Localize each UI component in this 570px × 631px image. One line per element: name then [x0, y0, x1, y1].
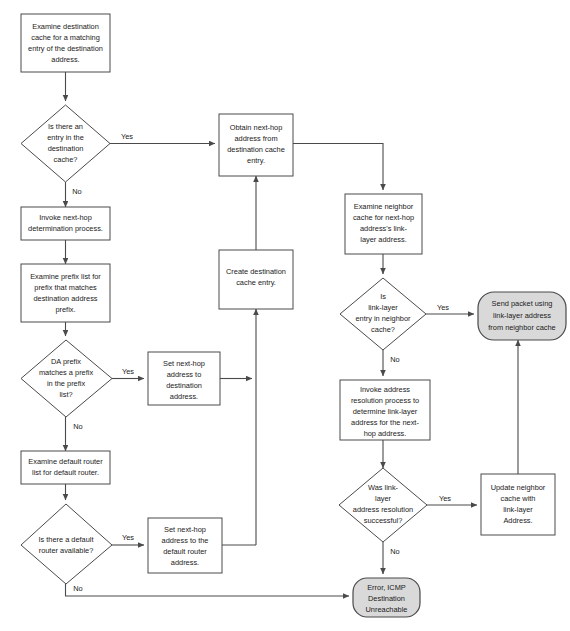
node-text-line: destination cache	[227, 145, 285, 154]
node-text-line: Create destination	[226, 267, 286, 276]
node-text-line: successful?	[364, 516, 403, 525]
node-invoke-next-hop-determination: Invoke next-hop determination process.	[21, 207, 110, 240]
connector-defaultrouter-no-to-error	[66, 584, 350, 596]
node-text-line: address for the next-	[351, 418, 419, 427]
node-set-next-hop-destination: Set next-hop address to destination addr…	[148, 352, 220, 405]
edge-label-da-prefix-no: No	[73, 422, 82, 431]
edge-label-neighbor-cache-yes: Yes	[437, 303, 449, 312]
node-text-line: Send packet using	[492, 299, 553, 308]
connector-obtain-to-neighborcache	[293, 144, 383, 191]
node-text-line: cache for next-hop	[353, 213, 414, 222]
node-text-line: Set next-hop	[164, 525, 206, 534]
flowchart-canvas: Examine destination cache for a matching…	[0, 0, 570, 631]
node-text-line: address resolution	[353, 505, 413, 514]
node-examine-destination-cache: Examine destination cache for a matching…	[21, 14, 110, 72]
node-text-line: address.	[171, 558, 199, 567]
node-text-line: matches a prefix	[39, 368, 94, 377]
node-text-line: from neighbor cache	[488, 323, 555, 332]
node-send-packet: Send packet using link-layer address fro…	[478, 292, 566, 340]
node-text-line: link-layer	[503, 505, 533, 514]
node-text-line: Is there a default	[38, 535, 93, 544]
node-create-destination-cache-entry: Create destination cache entry.	[219, 250, 293, 309]
node-text-line: list for default router.	[32, 468, 99, 477]
node-text-line: prefix.	[55, 305, 75, 314]
node-text-line: determine link-layer	[353, 407, 418, 416]
node-obtain-next-hop-address: Obtain next-hop address from destination…	[219, 114, 293, 176]
node-error-icmp-destination-unreachable: Error, ICMP Destination Unreachable	[353, 578, 420, 617]
node-text-line: DA prefix	[51, 357, 81, 366]
node-update-neighbor-cache: Update neighbor cache with link-layer Ad…	[481, 474, 555, 535]
node-text-line: router available?	[39, 546, 94, 555]
node-text-line: Obtain next-hop	[230, 123, 283, 132]
node-da-prefix-matches: DA prefix matches a prefix in the prefix…	[21, 340, 112, 417]
node-was-address-resolution-successful: Was link- layer address resolution succe…	[339, 468, 427, 542]
node-text-line: cache for a matching	[31, 33, 100, 42]
edge-label-resolution-yes: Yes	[439, 494, 451, 503]
node-text-line: Examine default router	[28, 457, 103, 466]
node-text-line: entry of the destination	[28, 44, 103, 53]
node-text-line: Invoke address	[360, 385, 410, 394]
node-text-line: link-layer	[368, 303, 398, 312]
node-text-line: destination	[48, 144, 84, 153]
node-text-line: Unreachable	[366, 605, 408, 614]
node-is-there-entry-destination-cache: Is there an entry in the destination cac…	[21, 105, 110, 182]
node-text-line: hop address.	[364, 429, 407, 438]
node-text-line: prefix that matches	[34, 283, 97, 292]
node-text-line: Is	[380, 292, 386, 301]
node-text-line: destination address	[33, 294, 97, 303]
node-text-line: address to the	[162, 536, 209, 545]
node-text-line: Examine neighbor	[354, 202, 414, 211]
node-text-line: entry in neighbor	[355, 314, 411, 323]
node-text-line: cache entry.	[236, 278, 276, 287]
edge-label-dest-cache-yes: Yes	[121, 132, 133, 141]
node-examine-default-router-list: Examine default router list for default …	[21, 451, 110, 484]
node-text-line: Examine prefix list for	[30, 272, 101, 281]
node-invoke-address-resolution: Invoke address resolution process to det…	[340, 380, 430, 440]
node-examine-neighbor-cache: Examine neighbor cache for next-hop addr…	[345, 194, 422, 254]
node-text-line: resolution process to	[351, 396, 419, 405]
edge-label-default-router-yes: Yes	[122, 533, 134, 542]
node-text-line: layer	[375, 494, 392, 503]
node-text-line: layer address.	[360, 235, 406, 244]
node-text-line: Error, ICMP	[367, 583, 406, 592]
node-text-line: in the prefix	[47, 379, 86, 388]
node-text-line: cache?	[54, 155, 78, 164]
flowchart-svg: Examine destination cache for a matching…	[0, 0, 570, 631]
node-text-line: link-layer address	[493, 311, 551, 320]
node-text-line: address from	[234, 134, 277, 143]
node-text-line: Is there an	[48, 122, 83, 131]
node-text-line: Destination	[368, 594, 405, 603]
node-text-line: entry in the	[47, 133, 84, 142]
node-text-line: cache with	[501, 494, 536, 503]
edge-label-neighbor-cache-no: No	[390, 355, 399, 364]
node-text-line: Was link-	[368, 483, 399, 492]
node-text-line: Invoke next-hop	[39, 213, 92, 222]
node-text-line: address.	[51, 55, 79, 64]
node-set-next-hop-default-router: Set next-hop address to the default rout…	[148, 518, 222, 573]
node-examine-prefix-list: Examine prefix list for prefix that matc…	[21, 264, 110, 322]
node-text-line: address's link-	[360, 224, 408, 233]
node-text-line: Set next-hop	[163, 359, 205, 368]
node-is-link-layer-entry-in-neighbor-cache: Is link-layer entry in neighbor cache?	[340, 278, 426, 350]
node-text-line: list?	[59, 390, 72, 399]
node-text-line: destination	[166, 381, 202, 390]
node-text-line: Address.	[503, 516, 532, 525]
node-text-line: address to	[167, 370, 202, 379]
node-text-line: cache?	[371, 325, 395, 334]
node-text-line: default router	[163, 547, 207, 556]
edge-label-default-router-no: No	[73, 584, 82, 593]
edge-label-dest-cache-no: No	[72, 187, 81, 196]
node-text-line: Update neighbor	[491, 483, 546, 492]
edge-label-da-prefix-yes: Yes	[122, 367, 134, 376]
node-text-line: Examine destination	[32, 22, 99, 31]
node-text-line: entry.	[247, 156, 265, 165]
edge-label-resolution-no: No	[390, 547, 399, 556]
node-text-line: address.	[170, 392, 198, 401]
node-text-line: determination process.	[28, 224, 103, 233]
node-is-there-default-router: Is there a default router available?	[21, 504, 112, 584]
